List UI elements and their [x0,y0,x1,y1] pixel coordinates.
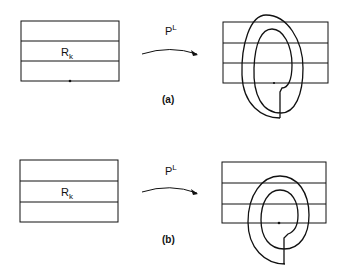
arrowhead-icon [191,189,198,195]
image-rectangle-a [223,22,328,83]
fixed-point-dot [69,80,72,83]
region-label: Rk [61,46,74,61]
region-rectangle-b [20,160,118,222]
panel-a: Rk PL (a) [21,15,328,118]
fixed-point-dot [273,82,275,84]
fixed-point-dot [278,222,281,225]
spiral-image-b [248,176,309,264]
map-arrow [142,188,197,193]
panel-caption: (a) [162,94,174,105]
map-label: PL [165,23,177,37]
image-rectangle-b [222,162,326,223]
figure: Rk PL (a) Rk PL ( [0,0,344,279]
arrowhead-icon [191,50,198,56]
spiral-image-a [242,15,303,118]
panel-caption: (b) [162,234,175,245]
region-rectangle-a [21,21,119,81]
map-label: PL [165,163,177,177]
panel-b: Rk PL (b) [20,160,326,264]
region-label: Rk [61,186,74,201]
map-arrow [142,50,197,55]
